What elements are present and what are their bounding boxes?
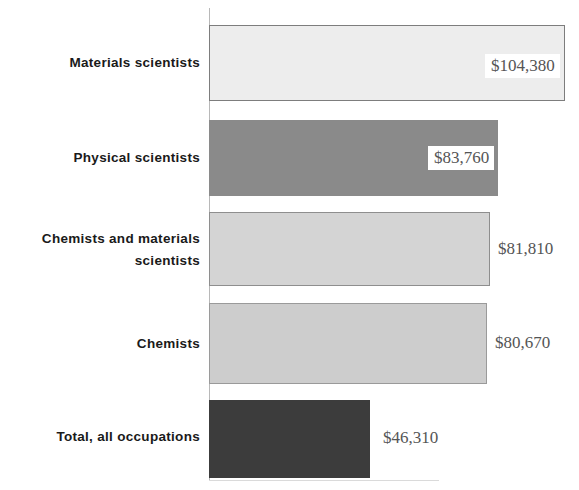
bar-chemists-and-materials-scientists[interactable] [209,212,490,286]
bar-chart: Materials scientists $104,380 Physical s… [0,0,579,490]
category-label: Chemists [0,333,200,355]
bar-value-label: $46,310 [383,429,438,446]
value-axis-baseline [209,480,439,481]
bar-value-label: $80,670 [495,334,550,351]
category-label: Physical scientists [0,147,200,169]
category-label: Total, all occupations [0,426,200,448]
bar-value-label: $104,380 [485,54,560,78]
bar-total-all-occupations[interactable] [209,400,370,478]
category-label: Chemists and materials scientists [0,228,200,272]
category-label: Materials scientists [0,52,200,74]
bar-value-label: $83,760 [428,146,494,170]
bar-value-label: $81,810 [498,240,553,257]
bar-chemists[interactable] [209,303,487,384]
